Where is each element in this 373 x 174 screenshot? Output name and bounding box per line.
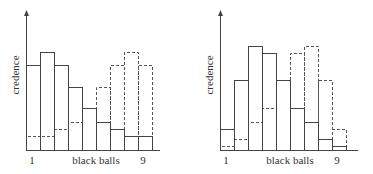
solid-bar-5 <box>277 81 291 151</box>
x-tick-label-first: 1 <box>223 154 229 166</box>
dashed-bar-2 <box>235 140 249 151</box>
dashed-bar-8 <box>125 53 139 151</box>
dashed-bar-3 <box>55 130 69 151</box>
solid-bar-9 <box>333 147 347 151</box>
solid-bar-7 <box>305 123 319 151</box>
x-tick-label-first: 1 <box>29 154 35 166</box>
dashed-series <box>27 53 153 151</box>
solid-bar-1 <box>27 66 41 151</box>
solid-bar-9 <box>139 137 153 151</box>
dashed-bar-4 <box>263 109 277 151</box>
y-axis-arrow-icon <box>218 10 223 16</box>
solid-bar-3 <box>55 66 69 151</box>
y-axis-label: credence <box>203 55 215 94</box>
solid-bar-6 <box>291 109 305 151</box>
solid-bar-4 <box>263 54 277 151</box>
x-tick-label-last: 9 <box>334 154 340 166</box>
solid-bar-4 <box>69 88 83 151</box>
dashed-bar-6 <box>97 88 111 151</box>
right-histogram: credence1black balls9 <box>203 10 358 166</box>
dashed-bar-5 <box>83 109 97 151</box>
solid-bar-5 <box>83 109 97 151</box>
dashed-bar-7 <box>111 66 125 151</box>
x-tick-label-last: 9 <box>140 154 146 166</box>
dashed-bar-1 <box>27 137 41 151</box>
solid-bar-8 <box>319 140 333 151</box>
dashed-bar-9 <box>139 66 153 151</box>
dashed-bar-1 <box>221 147 235 151</box>
y-axis-label: credence <box>9 55 21 94</box>
y-axis-arrow-icon <box>24 10 29 16</box>
charts-svg: credence1black balls9 credence1black bal… <box>0 0 373 174</box>
x-axis-label: black balls <box>266 154 313 166</box>
dashed-bar-4 <box>69 123 83 151</box>
solid-series <box>27 53 153 151</box>
solid-series <box>221 47 347 151</box>
solid-bar-6 <box>97 123 111 151</box>
solid-bar-3 <box>249 47 263 151</box>
x-axis-label: black balls <box>72 154 119 166</box>
solid-bar-1 <box>221 130 235 151</box>
dashed-bar-5 <box>277 81 291 151</box>
dashed-bar-3 <box>249 123 263 151</box>
dashed-bar-7 <box>305 47 319 151</box>
solid-bar-2 <box>41 53 55 151</box>
dashed-series <box>221 47 347 151</box>
figure: credence1black balls9 credence1black bal… <box>0 0 373 174</box>
solid-bar-8 <box>125 137 139 151</box>
dashed-bar-2 <box>41 137 55 151</box>
solid-bar-7 <box>111 130 125 151</box>
dashed-bar-6 <box>291 54 305 151</box>
left-histogram: credence1black balls9 <box>9 10 160 166</box>
